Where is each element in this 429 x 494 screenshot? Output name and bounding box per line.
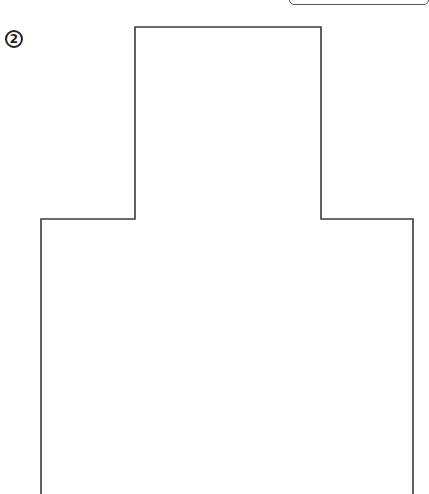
outline-path — [41, 27, 413, 494]
